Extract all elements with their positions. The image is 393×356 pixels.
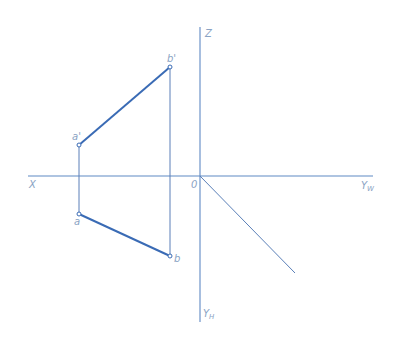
label-z: Z — [204, 28, 213, 39]
label-yw-sub: W — [367, 185, 375, 193]
label-b-prime: b' — [167, 53, 176, 64]
segment-a-prime-b-prime — [79, 67, 170, 145]
segment-a-b — [79, 214, 170, 256]
point-b-prime — [168, 65, 172, 69]
forty-five-degree-line — [200, 176, 295, 273]
label-origin: 0 — [191, 179, 197, 190]
label-a: a — [74, 216, 80, 227]
label-b: b — [174, 253, 180, 264]
label-yh: YH — [203, 308, 215, 321]
label-a-prime: a' — [72, 131, 81, 142]
point-b — [168, 254, 172, 258]
projection-diagram: Z X 0 YW YH b' a' a b — [0, 0, 393, 356]
label-yw: YW — [361, 180, 375, 193]
label-x: X — [28, 179, 37, 190]
point-a-prime — [77, 143, 81, 147]
label-yh-sub: H — [209, 313, 215, 321]
